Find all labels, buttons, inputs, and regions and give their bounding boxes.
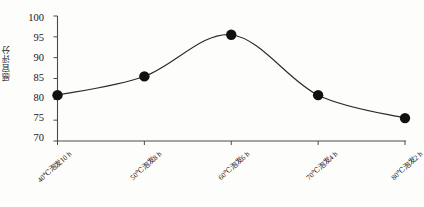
data-point-marker: 70℃泡发4 h: 81 bbox=[313, 90, 323, 100]
data-point-marker: 60℃泡发6 h: 95.5 bbox=[226, 30, 236, 40]
data-point-marker: 50℃泡发8 h: 85.5 bbox=[139, 71, 149, 81]
x-axis-ticks bbox=[58, 141, 406, 145]
data-point-marker: 80℃泡发2 h: 75.5 bbox=[400, 113, 410, 123]
data-series-line bbox=[58, 35, 406, 119]
data-point-marker: 40℃泡发10 h: 81 bbox=[52, 90, 62, 100]
y-axis-ticks bbox=[54, 16, 58, 141]
data-point-markers: 40℃泡发10 h: 8150℃泡发8 h: 85.560℃泡发6 h: 95.… bbox=[52, 30, 410, 124]
